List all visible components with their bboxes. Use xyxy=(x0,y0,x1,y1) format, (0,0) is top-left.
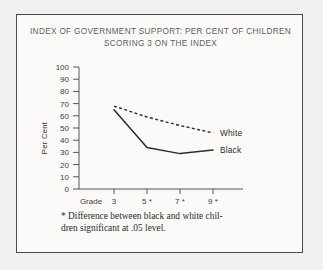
y-axis-ticks xyxy=(73,67,79,189)
y-axis-tick-labels: 100 90 80 70 60 50 40 30 20 10 0 xyxy=(56,63,70,194)
y-tick-label: 100 xyxy=(56,63,70,72)
y-tick-label: 20 xyxy=(60,161,69,170)
series-line-black xyxy=(114,110,213,154)
footnote-line-1: * Difference between black and white chi… xyxy=(61,211,266,223)
y-tick-label: 90 xyxy=(60,75,69,84)
y-tick-label: 80 xyxy=(60,87,69,96)
footnote: * Difference between black and white chi… xyxy=(61,211,266,234)
footnote-line-2: dren significant at .05 level. xyxy=(61,223,266,235)
figure-frame: INDEX OF GOVERNMENT SUPPORT: PER CENT OF… xyxy=(16,14,303,253)
x-tick-label: 7 * xyxy=(175,197,185,206)
x-axis-tick-labels: Grade 3 5 * 7 * 9 * xyxy=(80,197,218,206)
x-axis-ticks xyxy=(114,189,213,194)
y-tick-label: 50 xyxy=(60,124,69,133)
series-line-white xyxy=(114,106,213,133)
x-tick-label: 3 xyxy=(112,197,117,206)
series-label-black: Black xyxy=(220,145,242,155)
y-tick-label: 30 xyxy=(60,148,69,157)
y-tick-label: 60 xyxy=(60,112,69,121)
y-axis-label: Per Cent xyxy=(40,121,49,154)
x-tick-label: 5 * xyxy=(142,197,152,206)
x-tick-label: 9 * xyxy=(208,197,218,206)
x-axis-prefix-label: Grade xyxy=(80,197,103,206)
y-tick-label: 10 xyxy=(60,173,69,182)
y-tick-label: 40 xyxy=(60,136,69,145)
series-label-white: White xyxy=(220,128,242,138)
y-tick-label: 0 xyxy=(65,185,70,194)
y-tick-label: 70 xyxy=(60,100,69,109)
